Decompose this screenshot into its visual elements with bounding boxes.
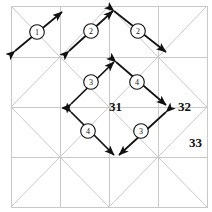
block-label-32: 32 [178,100,191,113]
callout-4-upper-right: 4 [130,75,145,90]
callout-3-upper-left: 3 [84,75,99,90]
callout-4-upper-right-label: 4 [135,78,139,87]
callout-2-right-label: 2 [136,27,140,36]
callout-1-label: 1 [35,28,39,37]
block-label-31: 31 [109,100,122,113]
callout-badges: 1 2 2 3 4 4 3 [30,24,149,139]
block-label-33: 33 [189,136,202,149]
callout-2-left-label: 2 [89,27,93,36]
callout-3-lower-right: 3 [134,124,149,139]
callout-3-lower-right-label: 3 [139,127,143,136]
callout-1: 1 [30,25,45,40]
callout-4-lower-left: 4 [81,124,96,139]
diagram-canvas: 1 2 2 3 4 4 3 [0,0,212,212]
callout-2-right: 2 [131,24,146,39]
callout-3-upper-left-label: 3 [89,78,93,87]
callout-4-lower-left-label: 4 [86,127,90,136]
callout-2-left: 2 [84,24,99,39]
